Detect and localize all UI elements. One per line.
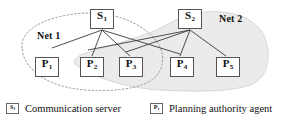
node-agent-p3[interactable]: P 3 xyxy=(119,57,143,77)
node-p3-subscript: 3 xyxy=(133,64,137,71)
node-agent-p1[interactable]: P 1 xyxy=(35,57,59,77)
legend-agent-label: Planning authority agent xyxy=(169,103,272,114)
node-s2-subscript: 2 xyxy=(192,16,196,23)
node-server-s1[interactable]: S 1 xyxy=(90,9,114,29)
legend: S i Communication server P i Planning au… xyxy=(0,100,291,120)
legend-item-agent: P i Planning authority agent xyxy=(150,103,272,114)
legend-agent-icon-subscript: i xyxy=(158,107,159,111)
node-p3-base: P xyxy=(126,58,133,69)
node-p2-subscript: 2 xyxy=(94,64,98,71)
legend-server-icon-base: S xyxy=(10,104,13,110)
node-s1-base: S xyxy=(97,10,103,21)
node-p1-base: P xyxy=(42,58,49,69)
net-label-net2: Net 2 xyxy=(219,13,243,24)
node-p2-base: P xyxy=(87,58,94,69)
node-server-s2[interactable]: S 2 xyxy=(178,9,202,29)
network-diagram: Net 1 Net 2 S 1 S 2 P 1 P 2 P 3 P 4 P 5 … xyxy=(0,0,291,127)
node-p5-base: P xyxy=(223,58,230,69)
legend-server-icon: S i xyxy=(6,103,19,114)
node-p1-subscript: 1 xyxy=(49,64,53,71)
node-agent-p4[interactable]: P 4 xyxy=(170,57,194,77)
node-s2-base: S xyxy=(185,10,191,21)
legend-agent-icon: P i xyxy=(150,103,163,114)
net-label-net1: Net 1 xyxy=(37,30,61,41)
node-p4-base: P xyxy=(177,58,184,69)
node-agent-p2[interactable]: P 2 xyxy=(80,57,104,77)
node-agent-p5[interactable]: P 5 xyxy=(216,57,240,77)
legend-item-server: S i Communication server xyxy=(6,103,121,114)
legend-server-label: Communication server xyxy=(25,103,121,114)
legend-server-icon-subscript: i xyxy=(14,107,15,111)
legend-agent-icon-base: P xyxy=(154,104,158,110)
node-p5-subscript: 5 xyxy=(230,64,234,71)
node-s1-subscript: 1 xyxy=(104,16,108,23)
node-p4-subscript: 4 xyxy=(184,64,188,71)
